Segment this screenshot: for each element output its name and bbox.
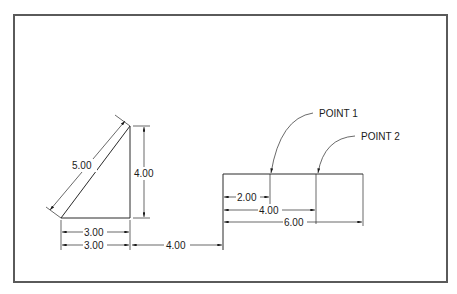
gap-dimension: 4.00 bbox=[132, 239, 222, 251]
base-baseline-dimension: 3.00 bbox=[62, 239, 129, 251]
point1-leader bbox=[271, 113, 313, 173]
dim-2-00: 2.00 bbox=[224, 191, 269, 203]
base-baseline-label: 3.00 bbox=[84, 240, 104, 251]
dim-4-00: 4.00 bbox=[224, 204, 315, 216]
dim-6-00-label: 6.00 bbox=[284, 217, 304, 228]
point1-label: POINT 1 bbox=[319, 108, 358, 119]
rectangle-part: 2.00 4.00 6.00 POINT 1 POINT 2 bbox=[223, 108, 400, 250]
drawing-frame bbox=[14, 15, 447, 282]
height-dimension: 4.00 bbox=[133, 126, 157, 218]
dim-4-00-label: 4.00 bbox=[259, 205, 279, 216]
point2-callout: POINT 2 bbox=[318, 131, 400, 173]
dim-2-00-label: 2.00 bbox=[237, 192, 257, 203]
triangle-part: 5.00 4.00 3.00 3.00 bbox=[46, 115, 157, 251]
hypotenuse-dimension: 5.00 bbox=[46, 115, 130, 218]
height-label: 4.00 bbox=[134, 168, 154, 179]
base-label: 3.00 bbox=[84, 227, 104, 238]
point1-callout: POINT 1 bbox=[271, 108, 358, 173]
hypotenuse-label: 5.00 bbox=[72, 160, 92, 171]
gap-label: 4.00 bbox=[166, 240, 186, 251]
point2-label: POINT 2 bbox=[361, 131, 400, 142]
dim-6-00: 6.00 bbox=[224, 216, 362, 228]
point2-leader bbox=[318, 136, 355, 173]
drawing-canvas: 5.00 4.00 3.00 3.00 4.00 bbox=[0, 0, 457, 294]
